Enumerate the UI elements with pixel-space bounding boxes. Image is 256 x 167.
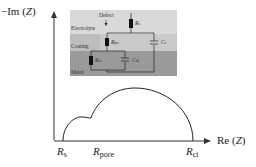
layer-electrolyte: Electrolyte: [71, 25, 95, 31]
defect-label: Defect: [99, 12, 114, 18]
layer-coating: Coating: [71, 43, 88, 49]
tick-rct: Rct: [186, 145, 199, 159]
tick-rpore: Rpore: [93, 145, 114, 159]
x-axis-arrow-icon: [204, 138, 211, 144]
component-rs: Rs: [135, 20, 140, 26]
x-axis-label: Re (Z): [217, 134, 245, 146]
y-axis-arrow-icon: [51, 11, 57, 18]
component-cc: Cc: [161, 39, 166, 45]
component-cdl: Cdl: [132, 57, 139, 63]
layer-metal: Metal: [71, 69, 84, 75]
y-axis-label: −Im (Z): [1, 5, 36, 17]
impedance-curve: [63, 88, 193, 141]
component-rct: Rct: [95, 57, 101, 63]
tick-rs: Rs: [57, 145, 67, 159]
component-rpo: Rpo: [111, 39, 118, 45]
